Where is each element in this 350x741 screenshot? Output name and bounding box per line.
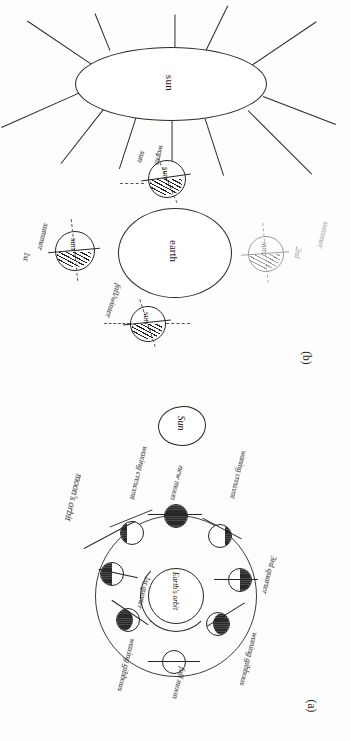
moon-shadow [165, 505, 187, 527]
panel-a-moon-phases: Sun Earth's orbit new moon waxing cresce… [0, 0, 350, 741]
moon-tick [214, 579, 258, 580]
earth-center-label: Earth's orbit [167, 568, 183, 614]
moon-shadow [225, 525, 231, 547]
scanned-page: sun earth sun sun warm sun summer 1st [0, 0, 350, 741]
label-waning-crescent: waning crescent [228, 450, 249, 500]
panel-a-caption: (a) [306, 700, 318, 713]
moon-tick [148, 661, 200, 662]
label-third-quarter: 3rd quarter [260, 555, 279, 595]
moon-new [164, 504, 188, 528]
moon-waxing-crescent [120, 521, 144, 545]
label-moon-orbit: moon's orbit [63, 473, 85, 522]
sun-blob-label: Sun [172, 405, 190, 441]
moon-shadow [101, 563, 112, 585]
moon-tick [148, 514, 202, 515]
label-waxing-crescent: waxing crescent [128, 445, 151, 501]
label-new-moon: new moon [168, 465, 186, 502]
